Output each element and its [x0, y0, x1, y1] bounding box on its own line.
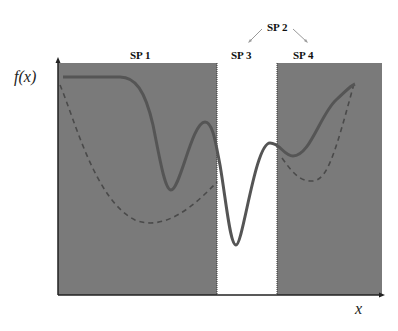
branch-arrow-sp4 — [293, 29, 307, 42]
y-axis-arrow-icon — [56, 57, 61, 63]
region-sp4-label: SP 4 — [293, 49, 314, 61]
region-sp3-label: SP 3 — [231, 49, 252, 61]
parent-sp2-label: SP 2 — [267, 21, 288, 33]
y-axis-label: f(x) — [14, 68, 36, 86]
region-sp1 — [58, 63, 217, 295]
branch-and-bound-figure: f(x) x SP 1 SP 3 SP 4 SP 2 — [0, 0, 398, 331]
x-axis-label: x — [354, 300, 362, 317]
region-sp4 — [277, 63, 382, 295]
region-sp1-label: SP 1 — [130, 49, 150, 61]
